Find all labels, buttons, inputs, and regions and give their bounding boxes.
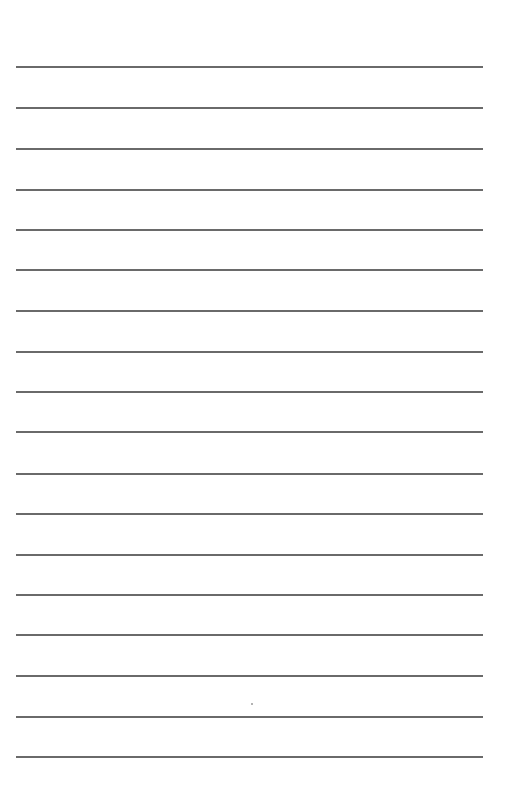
ruled-line — [16, 310, 483, 312]
paper-speck — [251, 703, 253, 705]
ruled-line — [16, 148, 483, 150]
ruled-line — [16, 756, 483, 758]
ruled-line — [16, 269, 483, 271]
ruled-line — [16, 431, 483, 433]
ruled-line — [16, 473, 483, 475]
ruled-line — [16, 513, 483, 515]
ruled-line — [16, 634, 483, 636]
ruled-line — [16, 189, 483, 191]
ruled-line — [16, 391, 483, 393]
ruled-line — [16, 66, 483, 68]
ruled-line — [16, 107, 483, 109]
ruled-line — [16, 675, 483, 677]
ruled-line — [16, 594, 483, 596]
ruled-line — [16, 716, 483, 718]
lined-paper-page — [0, 0, 509, 808]
ruled-line — [16, 229, 483, 231]
ruled-line — [16, 554, 483, 556]
ruled-line — [16, 351, 483, 353]
